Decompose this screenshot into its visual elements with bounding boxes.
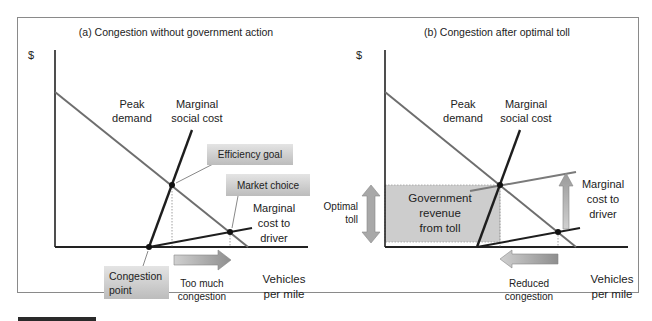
panel-b-mcd-label-1: Marginal	[582, 178, 624, 190]
panel-b-optimal-point	[497, 182, 503, 188]
panel-b-title: (b) Congestion after optimal toll	[424, 26, 570, 38]
panel-b-msc-label-2: social cost	[500, 112, 551, 124]
panel-a-mcd-label-3: driver	[260, 232, 288, 244]
panel-b-mcd-label-3: driver	[589, 208, 617, 220]
panel-b-toll-label-2: toll	[345, 214, 358, 225]
panel-b-demand-label-2: demand	[443, 112, 483, 124]
panel-a-msc-label-1: Marginal	[176, 98, 218, 110]
panel-a-market-point	[227, 229, 233, 235]
panel-a: (a) Congestion without government action…	[28, 26, 310, 302]
panel-a-x-axis-label-1: Vehicles	[263, 273, 306, 285]
panel-b-left-arrow-icon	[500, 250, 558, 268]
panel-a-efficiency-point	[169, 182, 175, 188]
panel-b-toll-label-1: Optimal	[324, 201, 358, 212]
panel-a-demand-label-2: demand	[112, 112, 152, 124]
panel-a-market-leader	[232, 196, 238, 228]
panel-b-arrow-label-2: congestion	[505, 291, 553, 302]
panel-b-revenue-label-2: revenue	[419, 207, 461, 219]
panel-b-old-market-point	[555, 229, 561, 235]
panel-a-mcd-label-1: Marginal	[253, 202, 295, 214]
congestion-diagram: (a) Congestion without government action…	[0, 0, 652, 321]
panel-b-demand-label-1: Peak	[450, 98, 476, 110]
panel-a-congestion-text-1: Congestion	[109, 270, 162, 282]
panel-b-mcd-label-2: cost to	[587, 193, 619, 205]
panel-b: (b) Congestion after optimal toll $ Gove…	[324, 26, 634, 302]
panel-a-efficiency-goal-text: Efficiency goal	[218, 149, 282, 160]
figure-caption-bar	[18, 317, 96, 321]
panel-a-efficiency-leader	[176, 163, 215, 183]
panel-b-y-axis-label: $	[356, 49, 362, 61]
panel-a-congestion-point	[146, 244, 152, 250]
panel-b-x-axis-label-2: per mile	[592, 288, 633, 300]
panel-a-marginal-social-cost-curve	[149, 130, 192, 247]
panel-b-up-arrow-icon	[559, 173, 573, 229]
panel-a-right-arrow-icon	[174, 250, 231, 270]
panel-a-arrow-label-2: congestion	[178, 291, 226, 302]
panel-a-congestion-leader	[143, 251, 148, 266]
panel-b-revenue-label-3: from toll	[420, 222, 461, 234]
panel-a-market-choice-text: Market choice	[237, 180, 300, 191]
panel-a-arrow-label-1: Too much	[180, 278, 223, 289]
panel-a-msc-label-2: social cost	[171, 112, 222, 124]
panel-a-title: (a) Congestion without government action	[79, 26, 274, 38]
panel-a-x-axis-label-2: per mile	[264, 288, 305, 300]
panel-b-msc-label-1: Marginal	[505, 98, 547, 110]
panel-b-arrow-label-1: Reduced	[509, 278, 549, 289]
panel-b-revenue-label-1: Government	[408, 192, 472, 204]
panel-a-congestion-text-2: point	[109, 284, 132, 296]
panel-b-x-axis-label-1: Vehicles	[591, 273, 634, 285]
panel-b-double-arrow-icon	[362, 185, 380, 243]
panel-a-demand-label-1: Peak	[119, 98, 145, 110]
panel-a-y-axis-label: $	[28, 49, 34, 61]
panel-a-mcd-label-2: cost to	[258, 217, 290, 229]
